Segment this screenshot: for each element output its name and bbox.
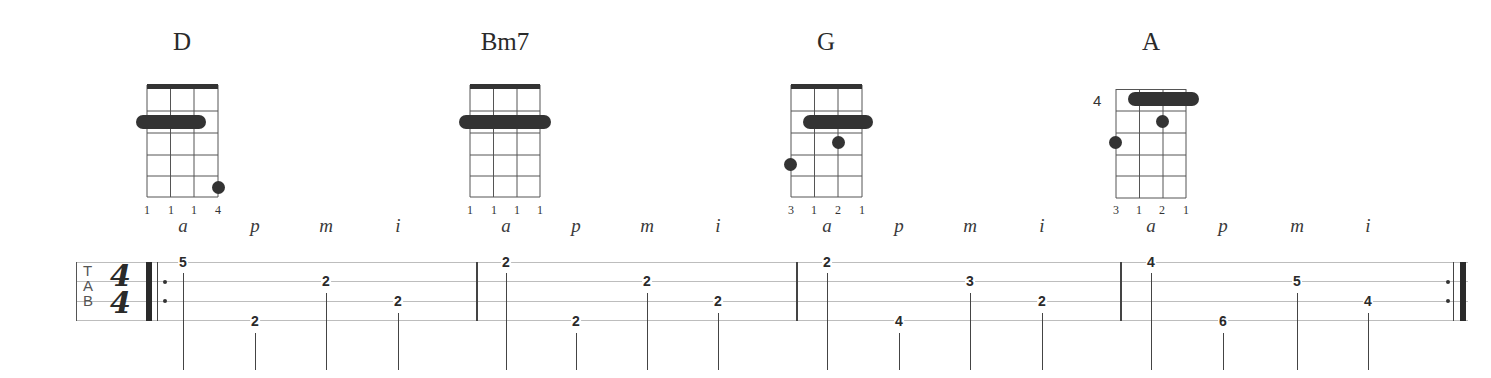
chord-diagram-a <box>1116 89 1188 199</box>
tab-fret-number: 5 <box>1292 274 1302 288</box>
left-barline <box>76 262 77 321</box>
barre-marker <box>459 115 551 129</box>
finger-label: a <box>822 215 832 237</box>
tab-fret-number: 2 <box>1037 294 1047 308</box>
repeat-dot <box>1446 299 1450 303</box>
finger-dot <box>212 181 225 194</box>
note-stem <box>970 293 971 370</box>
chord-name-bm7: Bm7 <box>481 28 530 56</box>
time-signature-bottom: 4 <box>110 290 131 316</box>
note-stem <box>1297 293 1298 370</box>
tab-fret-number: 2 <box>321 274 331 288</box>
staff-line-3 <box>76 301 1468 302</box>
note-stem <box>255 333 256 370</box>
finger-label: m <box>963 215 977 237</box>
tab-fret-number: 2 <box>713 294 723 308</box>
end-repeat-thin-bar <box>1453 262 1454 321</box>
tab-fret-number: 4 <box>894 314 904 328</box>
finger-label: m <box>319 215 333 237</box>
note-stem <box>398 313 399 370</box>
note-stem <box>326 293 327 370</box>
note-stem <box>718 313 719 370</box>
tab-clef-a: A <box>83 278 93 293</box>
repeat-dot <box>1446 280 1450 284</box>
finger-label: i <box>1365 215 1370 237</box>
fingering-label: 1 <box>491 203 497 218</box>
note-stem <box>506 273 507 370</box>
staff-line-1 <box>76 262 1468 263</box>
note-stem <box>827 273 828 370</box>
tab-fret-number: 2 <box>642 274 652 288</box>
finger-dot <box>1156 115 1169 128</box>
barline <box>476 262 478 321</box>
tab-fret-number: 2 <box>571 314 581 328</box>
chord-name-a: A <box>1142 28 1160 56</box>
finger-dot <box>832 136 845 149</box>
barre-marker <box>1128 92 1199 106</box>
chord-diagram-d <box>147 85 219 198</box>
fingering-label: 1 <box>1136 203 1142 218</box>
barline <box>1120 262 1122 321</box>
fingering-label: 1 <box>144 203 150 218</box>
repeat-dot <box>163 280 167 284</box>
tab-fret-number: 2 <box>250 314 260 328</box>
note-stem <box>576 333 577 370</box>
tab-fret-number: 4 <box>1146 255 1156 269</box>
staff-line-4 <box>76 320 1468 321</box>
fingering-label: 1 <box>168 203 174 218</box>
tab-fret-number: 6 <box>1218 314 1228 328</box>
fingering-label: 2 <box>835 203 841 218</box>
tab-clef-t: T <box>83 263 92 278</box>
finger-label: a <box>501 215 511 237</box>
note-stem <box>899 333 900 370</box>
tab-clef-b: B <box>83 293 93 308</box>
finger-label: a <box>178 215 188 237</box>
barre-marker <box>803 115 873 129</box>
tab-fret-number: 2 <box>501 255 511 269</box>
end-repeat-thick-bar <box>1460 262 1466 321</box>
chord-name-g: G <box>817 28 835 56</box>
barre-marker <box>136 115 206 129</box>
finger-label: p <box>250 215 260 237</box>
note-stem <box>1151 273 1152 370</box>
fingering-label: 1 <box>811 203 817 218</box>
fingering-label: 1 <box>514 203 520 218</box>
tab-fret-number: 4 <box>1363 294 1373 308</box>
barline <box>796 262 798 321</box>
chord-diagram-bm7 <box>470 85 542 198</box>
fingering-label: 4 <box>215 203 221 218</box>
fingering-label: 1 <box>859 203 865 218</box>
chord-diagram-g <box>791 85 863 198</box>
fingering-label: 1 <box>1183 203 1189 218</box>
finger-label: i <box>715 215 720 237</box>
note-stem <box>1368 313 1369 370</box>
note-stem <box>647 293 648 370</box>
fingering-label: 1 <box>537 203 543 218</box>
finger-label: m <box>1290 215 1304 237</box>
tab-fret-number: 2 <box>393 294 403 308</box>
fingering-label: 3 <box>1113 203 1119 218</box>
note-stem <box>1042 313 1043 370</box>
note-stem <box>183 273 184 370</box>
tab-fret-number: 3 <box>965 274 975 288</box>
fingering-label: 1 <box>191 203 197 218</box>
finger-label: m <box>640 215 654 237</box>
fret-position-label: 4 <box>1093 92 1101 109</box>
finger-label: a <box>1146 215 1156 237</box>
tab-fret-number: 5 <box>178 255 188 269</box>
note-stem <box>1223 333 1224 370</box>
finger-dot <box>1109 136 1122 149</box>
finger-label: p <box>1218 215 1228 237</box>
tab-fret-number: 2 <box>822 255 832 269</box>
finger-label: i <box>1039 215 1044 237</box>
fingering-label: 2 <box>1159 203 1165 218</box>
chord-name-d: D <box>173 28 191 56</box>
fingering-label: 1 <box>467 203 473 218</box>
repeat-dot <box>163 299 167 303</box>
finger-label: i <box>395 215 400 237</box>
start-repeat-thin-bar <box>157 262 158 321</box>
staff-line-2 <box>76 281 1468 282</box>
finger-label: p <box>894 215 904 237</box>
fingering-label: 3 <box>788 203 794 218</box>
finger-dot <box>784 158 797 171</box>
